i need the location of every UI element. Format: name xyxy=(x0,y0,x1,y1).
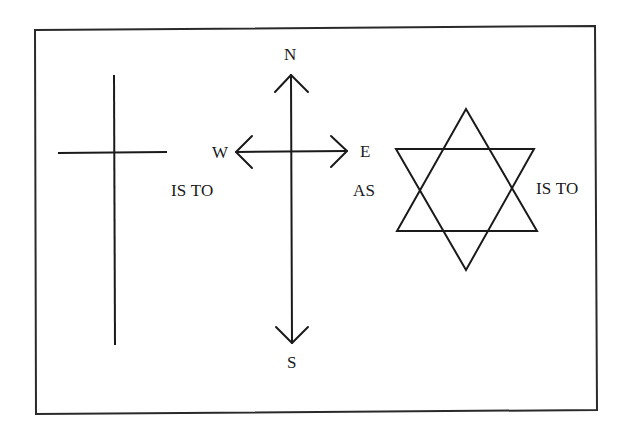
connector-is-to-second: IS TO xyxy=(536,180,578,197)
compass-label-east: E xyxy=(360,143,370,160)
diagram-frame xyxy=(35,26,597,414)
compass-vertical-axis xyxy=(291,75,292,343)
compass-arrows xyxy=(236,75,347,343)
compass-label-west: W xyxy=(212,144,228,161)
compass-horizontal-axis xyxy=(236,151,347,152)
cross-symbol xyxy=(58,75,167,345)
connector-is-to-first: IS TO xyxy=(171,182,213,199)
star-downward-triangle xyxy=(396,149,534,270)
connector-as: AS xyxy=(353,182,375,199)
cross-vertical-bar xyxy=(114,75,115,345)
cross-horizontal-bar xyxy=(58,152,167,153)
analogy-diagram xyxy=(0,0,626,431)
star-upward-triangle xyxy=(397,109,537,231)
compass-label-south: S xyxy=(287,354,296,371)
compass-label-north: N xyxy=(284,46,296,63)
six-pointed-star xyxy=(396,109,537,270)
